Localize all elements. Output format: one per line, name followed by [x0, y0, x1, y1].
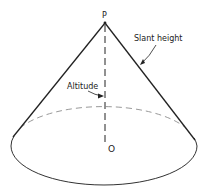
base-left-side [11, 136, 14, 146]
center-label: O [108, 144, 115, 154]
altitude-label: Altitude [67, 82, 98, 91]
base-front-arc [11, 146, 197, 185]
apex-point [104, 22, 107, 25]
left-slant-line [13, 23, 105, 137]
base-back-arc [20, 107, 186, 128]
cone-svg: P Slant height Altitude O [0, 0, 206, 193]
cone-diagram: P Slant height Altitude O [0, 0, 206, 193]
slant-height-arrowhead [140, 59, 145, 65]
apex-label: P [102, 11, 107, 20]
altitude-arrowhead [98, 94, 104, 99]
slant-height-label: Slant height [134, 34, 182, 43]
